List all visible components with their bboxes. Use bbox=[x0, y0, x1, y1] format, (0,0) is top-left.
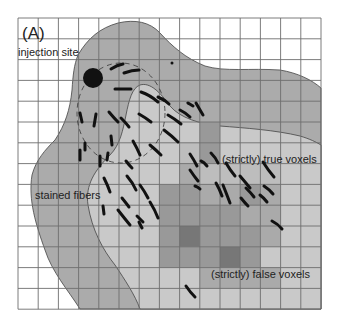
voxel-cell bbox=[159, 184, 179, 205]
injection-site-dot bbox=[83, 68, 103, 88]
false-voxels-label: (strictly) false voxels bbox=[211, 269, 310, 280]
voxel-cell bbox=[220, 247, 240, 268]
voxel-cell bbox=[220, 226, 240, 247]
injection-site-label: injection site bbox=[18, 47, 79, 58]
voxel-cell bbox=[240, 205, 260, 226]
voxel-cell bbox=[260, 226, 280, 247]
voxel-cell bbox=[200, 226, 220, 247]
voxel-cell bbox=[200, 205, 220, 226]
voxel-cell bbox=[200, 247, 220, 268]
voxel-cell bbox=[240, 247, 260, 268]
true-voxels-label: (strictly) true voxels bbox=[222, 154, 317, 165]
voxel-cell bbox=[180, 247, 200, 268]
voxel-cell bbox=[180, 226, 200, 247]
voxel-cell bbox=[159, 247, 179, 268]
voxel-cell bbox=[200, 122, 220, 143]
panel-label: (A) bbox=[22, 25, 45, 42]
voxel-cell bbox=[220, 205, 240, 226]
voxel-cell bbox=[159, 226, 179, 247]
voxel-cell bbox=[200, 164, 220, 185]
voxel-cell bbox=[240, 226, 260, 247]
voxel-cell bbox=[220, 164, 240, 185]
stained-fibers-label: stained fibers bbox=[35, 190, 100, 201]
voxel-cell bbox=[159, 205, 179, 226]
voxel-cell bbox=[180, 205, 200, 226]
voxel-cell bbox=[260, 184, 280, 205]
